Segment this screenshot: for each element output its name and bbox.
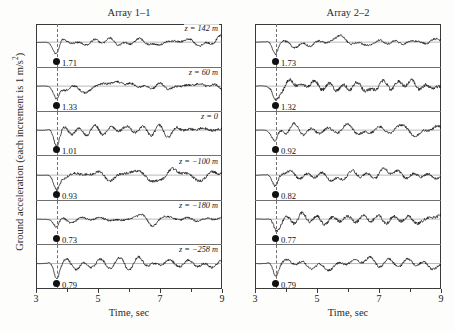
- array-panel-1-title: Array 1–1: [36, 7, 222, 18]
- depth-label: z = 142 m: [184, 24, 220, 34]
- trace-panel: 0.79: [255, 245, 441, 289]
- x-axis-right-title: Time, sec: [255, 307, 441, 318]
- array-panel-1: Array 1–1 z = 142 m1.71z = 60 m1.33z = 0…: [36, 24, 222, 289]
- peak-marker: [53, 235, 60, 242]
- seismogram-figure: Ground acceleration (each increment is 1…: [0, 0, 454, 331]
- array-panel-2: Array 2–2 1.731.320.920.820.770.79: [255, 24, 441, 289]
- peak-value-label: 0.93: [62, 191, 77, 201]
- trace-panel: z = −180 m0.73: [36, 201, 222, 245]
- trace-panel: z = −100 m0.93: [36, 157, 222, 201]
- trace-panel: z = 01.01: [36, 112, 222, 156]
- x-axis-right: 3579 Time, sec: [255, 289, 441, 319]
- x-axis-minor-tick: [286, 289, 287, 292]
- peak-value-label: 1.73: [281, 58, 296, 68]
- peak-value-label: 0.73: [62, 235, 77, 245]
- depth-label: z = −180 m: [178, 201, 219, 211]
- x-axis-tick-label: 3: [34, 293, 39, 304]
- x-axis-tick-label: 9: [439, 293, 444, 304]
- peak-value-label: 0.77: [281, 235, 296, 245]
- x-axis-tick-label: 3: [253, 293, 258, 304]
- peak-marker: [272, 280, 279, 287]
- trace-panel: 0.92: [255, 112, 441, 156]
- x-axis-minor-tick: [191, 289, 192, 292]
- trace-panel: z = 60 m1.33: [36, 68, 222, 112]
- trace-panel: 0.82: [255, 157, 441, 201]
- peak-value-label: 0.82: [281, 191, 296, 201]
- trace-panel: 0.77: [255, 201, 441, 245]
- x-axis-minor-tick: [410, 289, 411, 292]
- peak-marker: [272, 191, 279, 198]
- x-axis-minor-tick: [348, 289, 349, 292]
- peak-value-label: 1.32: [281, 102, 296, 112]
- x-axis-minor-tick: [129, 289, 130, 292]
- peak-value-label: 0.92: [281, 146, 296, 156]
- y-axis-label: Ground acceleration (each increment is 1…: [11, 17, 25, 287]
- array-panel-2-title: Array 2–2: [255, 7, 441, 18]
- peak-marker: [53, 191, 60, 198]
- x-axis-minor-tick: [67, 289, 68, 292]
- x-axis-tick-label: 5: [315, 293, 320, 304]
- trace-panel: z = −258 m0.79: [36, 245, 222, 289]
- trace-panel: 1.73: [255, 24, 441, 68]
- peak-value-label: 1.71: [62, 58, 77, 68]
- depth-label: z = 0: [200, 112, 219, 122]
- y-axis-label-superscript: 2: [11, 56, 20, 60]
- peak-marker: [272, 235, 279, 242]
- x-axis-tick-label: 5: [96, 293, 101, 304]
- x-axis-tick-label: 7: [158, 293, 163, 304]
- x-axis-left-title: Time, sec: [36, 307, 222, 318]
- depth-label: z = 60 m: [188, 68, 219, 78]
- peak-value-label: 1.01: [62, 146, 77, 156]
- trace-panel: z = 142 m1.71: [36, 24, 222, 68]
- x-axis-left: 3579 Time, sec: [36, 289, 222, 319]
- y-axis-label-text: Ground acceleration (each increment is 1…: [14, 60, 25, 251]
- x-axis-tick-label: 9: [220, 293, 225, 304]
- y-axis-label-tail: ): [14, 53, 25, 57]
- peak-marker: [53, 280, 60, 287]
- depth-label: z = −258 m: [178, 245, 219, 255]
- x-axis-tick-label: 7: [377, 293, 382, 304]
- depth-label: z = −100 m: [178, 157, 219, 167]
- trace-panel: 1.32: [255, 68, 441, 112]
- peak-value-label: 1.33: [62, 102, 77, 112]
